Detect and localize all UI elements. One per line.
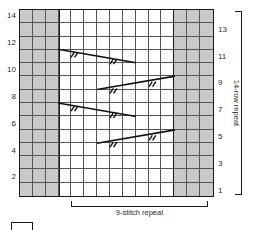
stitch-repeat-bracket [71, 201, 208, 207]
chart-cell [123, 143, 136, 156]
chart-cell [20, 10, 33, 23]
chart-row [20, 183, 213, 196]
chart-cell [200, 156, 213, 169]
chart-cell [200, 10, 213, 23]
chart-cell [149, 183, 162, 196]
chart-cell [187, 130, 200, 143]
row-number-left: 2 [2, 172, 16, 181]
chart-cell [46, 10, 59, 23]
chart-row [20, 63, 213, 76]
chart-cell [123, 23, 136, 36]
chart-cell [161, 156, 174, 169]
chart-cell [161, 169, 174, 182]
chart-cell [71, 90, 84, 103]
chart-cell [110, 156, 123, 169]
chart-cell [33, 116, 46, 129]
chart-cell [187, 10, 200, 23]
chart-cell [84, 50, 97, 63]
chart-cell [46, 169, 59, 182]
chart-cell [123, 63, 136, 76]
chart-cell [84, 63, 97, 76]
chart-row [20, 130, 213, 143]
chart-cell [123, 50, 136, 63]
chart-cell [123, 130, 136, 143]
chart-cell [149, 37, 162, 50]
chart-cell [110, 37, 123, 50]
stitch-repeat-label: 9-stitch repeat [71, 208, 208, 217]
chart-cell [161, 63, 174, 76]
chart-cell [59, 37, 72, 50]
chart-cell [161, 103, 174, 116]
chart-row [20, 23, 213, 36]
chart-cell [187, 169, 200, 182]
chart-cell [187, 37, 200, 50]
chart-cell [123, 90, 136, 103]
chart-cell [20, 103, 33, 116]
row-repeat-label: 14-row repeat [229, 11, 243, 195]
chart-cell [200, 23, 213, 36]
chart-cell [33, 50, 46, 63]
chart-cell [161, 130, 174, 143]
chart-cell [33, 76, 46, 89]
chart-row [20, 50, 213, 63]
chart-cell [33, 23, 46, 36]
chart-cell [71, 183, 84, 196]
chart-cell [136, 130, 149, 143]
chart-cell [187, 63, 200, 76]
chart-cell [187, 76, 200, 89]
chart-cell [84, 90, 97, 103]
stitch-chart: 1412108642 131197531 14-row repeat 9-sti… [0, 0, 268, 230]
chart-cell [46, 63, 59, 76]
chart-cell [200, 143, 213, 156]
chart-cell [174, 10, 187, 23]
chart-cell [200, 169, 213, 182]
chart-cell [71, 143, 84, 156]
chart-cell [136, 156, 149, 169]
row-number-left: 4 [2, 146, 16, 155]
chart-cell [71, 116, 84, 129]
chart-cell [20, 156, 33, 169]
chart-cell [149, 90, 162, 103]
chart-cell [84, 183, 97, 196]
chart-cell [200, 90, 213, 103]
chart-cell [110, 169, 123, 182]
chart-cell [174, 143, 187, 156]
chart-cell [71, 23, 84, 36]
chart-cell [84, 143, 97, 156]
chart-cell [200, 183, 213, 196]
chart-cell [110, 63, 123, 76]
chart-cell [200, 116, 213, 129]
chart-cell [20, 116, 33, 129]
chart-cell [187, 156, 200, 169]
chart-row [20, 10, 213, 23]
chart-cell [33, 156, 46, 169]
chart-cell [20, 90, 33, 103]
chart-cell [136, 169, 149, 182]
chart-cell [71, 50, 84, 63]
chart-cell [110, 183, 123, 196]
chart-cell [20, 63, 33, 76]
chart-cell [187, 183, 200, 196]
chart-cell [161, 183, 174, 196]
chart-cell [33, 183, 46, 196]
chart-cell [110, 23, 123, 36]
chart-row [20, 116, 213, 129]
chart-cell [174, 76, 187, 89]
chart-cell [71, 156, 84, 169]
chart-cell [59, 143, 72, 156]
chart-cell [136, 37, 149, 50]
chart-cell [174, 37, 187, 50]
chart-cell [46, 156, 59, 169]
row-number-left: 12 [2, 38, 16, 47]
chart-cell [71, 63, 84, 76]
chart-cell [33, 37, 46, 50]
chart-cell [59, 116, 72, 129]
chart-cell [200, 76, 213, 89]
chart-cell [110, 90, 123, 103]
chart-cell [149, 130, 162, 143]
chart-cell [46, 103, 59, 116]
chart-cell [149, 23, 162, 36]
chart-cell [136, 50, 149, 63]
chart-cell [110, 143, 123, 156]
chart-row [20, 76, 213, 89]
